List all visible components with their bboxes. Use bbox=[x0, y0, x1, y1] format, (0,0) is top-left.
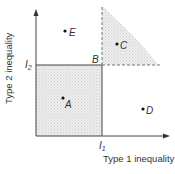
point-d-marker bbox=[141, 107, 144, 110]
x-threshold-label: I1 bbox=[99, 140, 106, 152]
y-axis-arrow-icon bbox=[34, 9, 39, 16]
point-d-label: D bbox=[146, 105, 153, 116]
point-c-label: C bbox=[120, 40, 128, 51]
point-e-label: E bbox=[69, 27, 76, 38]
point-e-marker bbox=[63, 29, 66, 32]
x-axis-label: Type 1 inequality bbox=[103, 153, 175, 164]
corner-label-b: B bbox=[92, 54, 99, 65]
x-axis-arrow-icon bbox=[163, 134, 170, 139]
inequality-diagram: I2 I1 B E C A D Type 1 inequality Type 2… bbox=[0, 0, 175, 174]
region-c-shaded bbox=[102, 7, 158, 65]
point-c-marker bbox=[115, 42, 118, 45]
y-axis-label: Type 2 inequality bbox=[3, 32, 14, 104]
point-a-label: A bbox=[64, 99, 72, 110]
y-threshold-label: I2 bbox=[25, 59, 32, 71]
